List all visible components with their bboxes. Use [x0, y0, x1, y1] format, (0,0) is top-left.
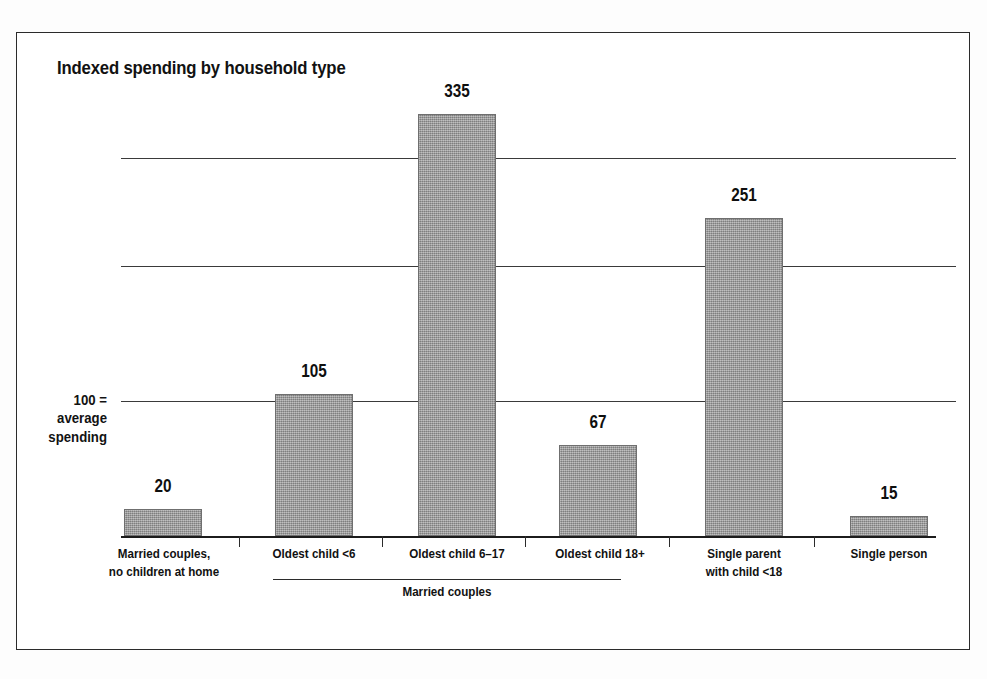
category-label-line: no children at home — [103, 563, 225, 581]
bar-value-oldest-child-18-plus: 67 — [565, 412, 631, 433]
category-label-oldest-child-6-17: Oldest child 6–17 — [396, 545, 518, 563]
category-label-line: Oldest child 6–17 — [396, 545, 518, 563]
category-label-line: Single parent — [683, 545, 805, 563]
group-bracket-rule — [273, 579, 621, 580]
group-bracket-label: Married couples — [297, 584, 596, 599]
axis-tick-3 — [525, 536, 526, 547]
bar-value-single-parent-with-child: 251 — [711, 185, 777, 206]
category-label-single-parent-with-child: Single parent with child <18 — [683, 545, 805, 581]
category-label-line: Oldest child 18+ — [539, 545, 661, 563]
bar-oldest-child-under-6[interactable] — [275, 394, 353, 536]
bar-value-single-person: 15 — [856, 483, 922, 504]
axis-tick-4 — [669, 536, 670, 547]
category-label-oldest-child-under-6: Oldest child <6 — [253, 545, 375, 563]
bar-oldest-child-18-plus[interactable] — [559, 445, 637, 536]
category-label-line: Oldest child <6 — [253, 545, 375, 563]
y-annotation-line-1: 100 = — [31, 391, 107, 409]
axis-tick-2 — [382, 536, 383, 547]
bar-single-person[interactable] — [850, 516, 928, 536]
y-annotation-line-3: spending — [31, 428, 107, 446]
plot-area: 100 = average spending 20 105 335 67 251… — [17, 33, 971, 651]
category-label-line: Married couples, — [103, 545, 225, 563]
category-label-oldest-child-18-plus: Oldest child 18+ — [539, 545, 661, 563]
bar-value-oldest-child-under-6: 105 — [281, 361, 347, 382]
bar-single-parent-with-child[interactable] — [705, 218, 783, 536]
bar-married-no-children[interactable] — [124, 509, 202, 536]
axis-tick-1 — [239, 536, 240, 547]
bar-value-oldest-child-6-17: 335 — [424, 81, 490, 102]
y-annotation-line-2: average — [31, 409, 107, 427]
chart-frame: Indexed spending by household type 100 =… — [16, 32, 970, 650]
category-label-married-no-children: Married couples, no children at home — [103, 545, 225, 581]
axis-tick-5 — [814, 536, 815, 547]
chart-page: Indexed spending by household type 100 =… — [0, 0, 987, 679]
bar-value-married-no-children: 20 — [130, 476, 196, 497]
category-label-single-person: Single person — [828, 545, 950, 563]
y-axis-annotation: 100 = average spending — [31, 391, 107, 446]
category-label-line: with child <18 — [683, 563, 805, 581]
category-label-line: Single person — [828, 545, 950, 563]
bar-oldest-child-6-17[interactable] — [418, 114, 496, 536]
